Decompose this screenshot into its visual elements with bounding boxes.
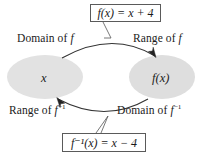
range-of-f-symbol: f	[179, 32, 182, 44]
range-of-f-prefix: Range of	[133, 32, 179, 44]
top-formula-leader-line	[103, 22, 111, 38]
forward-function-formula-text: f(x) = x + 4	[97, 7, 153, 19]
domain-of-f-inverse-superscript: −1	[174, 103, 182, 111]
domain-of-f-inverse-label: Domain of f−1	[117, 105, 181, 117]
right-set-element-label: f(x)	[152, 72, 169, 85]
range-of-f-inverse-label: Range of f−1	[9, 105, 66, 117]
left-set-element-label: x	[41, 72, 47, 85]
range-of-f-label: Range of f	[133, 33, 182, 45]
forward-function-formula-box: f(x) = x + 4	[90, 4, 161, 22]
bottom-formula-leader-line	[96, 116, 108, 133]
range-of-f-inverse-prefix: Range of	[9, 104, 55, 116]
diagram-canvas: x f(x) Domain of f Range of f Range of f…	[0, 0, 210, 158]
inverse-function-formula-box: f⁻¹(x) = x − 4	[62, 133, 146, 152]
domain-of-f-prefix: Domain of	[17, 32, 70, 44]
domain-of-f-label: Domain of f	[17, 33, 74, 45]
forward-arrowhead-icon	[149, 47, 157, 57]
domain-of-f-symbol: f	[70, 32, 73, 44]
inverse-function-formula-text: f⁻¹(x) = x − 4	[71, 137, 137, 149]
range-of-f-inverse-superscript: −1	[58, 103, 66, 111]
domain-of-f-inverse-prefix: Domain of	[117, 104, 170, 116]
forward-arrow-curve	[62, 43, 155, 58]
